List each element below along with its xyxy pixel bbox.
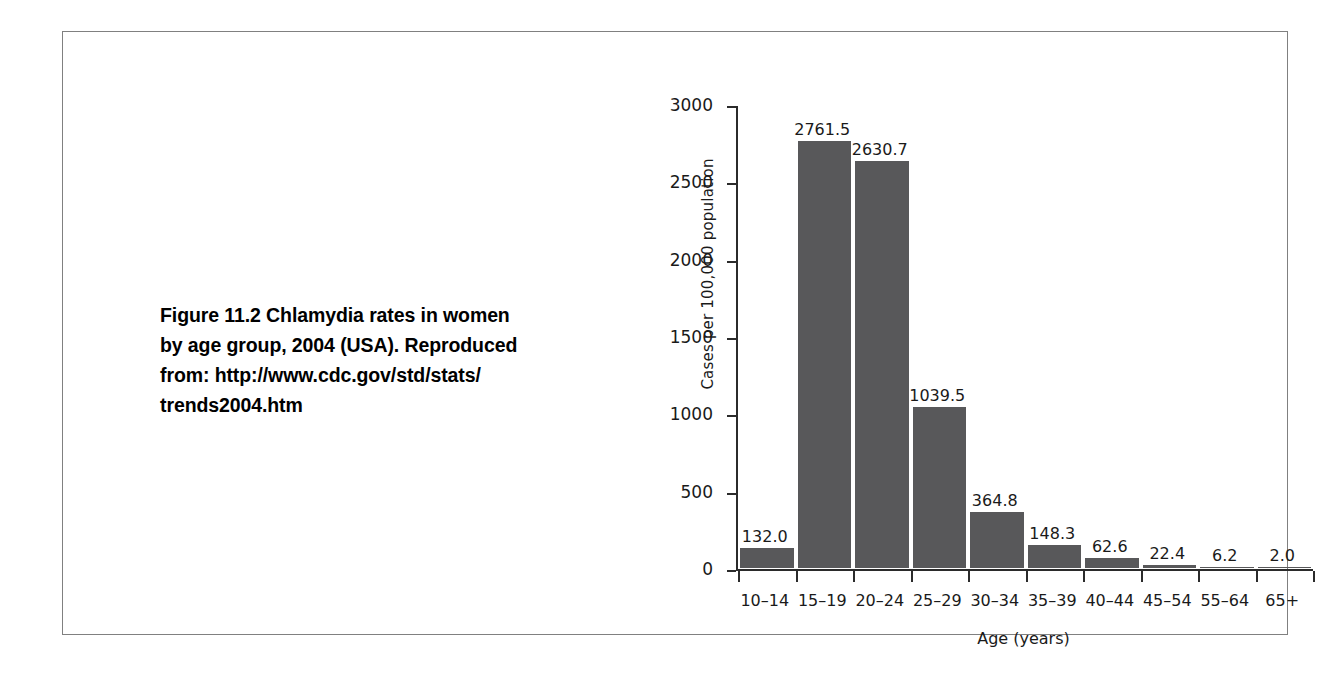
caption-line-3: from: http://www.cdc.gov/std/stats/ [160,360,575,390]
x-axis-tick [1198,571,1200,582]
x-axis-tick [1256,571,1258,582]
y-axis-tick: 3000 [727,106,736,108]
x-axis-tick [1083,571,1085,582]
y-axis-tick: 0 [727,570,736,572]
y-axis-tick-label: 0 [702,559,713,579]
x-axis-category-label: 65+ [1248,591,1318,610]
y-axis-tick-label: 2000 [670,250,713,270]
x-axis-tick [738,571,740,582]
caption-line-4: trends2004.htm [160,390,575,420]
bar-value-label: 2.0 [1246,546,1320,565]
x-axis-tick [1026,571,1028,582]
x-axis-tick [796,571,798,582]
bar-value-label: 2761.5 [786,120,860,139]
figure-caption: Figure 11.2 Chlamydia rates in women by … [160,300,575,420]
y-axis-tick-label: 500 [681,482,713,502]
bar[interactable] [913,407,967,568]
figure-frame: Figure 11.2 Chlamydia rates in women by … [62,31,1288,635]
y-axis-tick: 500 [727,493,736,495]
bar-chart: Cases per 100,000 population 05001000150… [638,87,1332,647]
bar[interactable] [855,161,909,568]
y-axis-tick: 2000 [727,261,736,263]
y-axis-tick-label: 1000 [670,404,713,424]
bar-value-label: 132.0 [728,527,802,546]
x-axis-title: Age (years) [736,629,1311,648]
x-axis-tick [968,571,970,582]
bar-value-label: 1039.5 [901,386,975,405]
x-axis-tick [853,571,855,582]
caption-line-2: by age group, 2004 (USA). Reproduced [160,330,575,360]
y-axis-line [736,106,738,571]
x-axis-tick [911,571,913,582]
y-axis-tick-label: 1500 [670,327,713,347]
y-axis-tick: 1500 [727,338,736,340]
bar-value-label: 2630.7 [843,140,917,159]
bar[interactable] [740,548,794,568]
plot-area: 050010001500200025003000 132.02761.52630… [736,106,1311,570]
x-axis-tick [1141,571,1143,582]
y-axis-tick-label: 3000 [670,95,713,115]
bar-value-label: 364.8 [958,491,1032,510]
y-axis-tick: 1000 [727,415,736,417]
x-axis-tick [1313,571,1315,582]
y-axis-tick-label: 2500 [670,172,713,192]
bar[interactable] [1200,567,1254,569]
bar[interactable] [1258,567,1312,569]
caption-line-1: Figure 11.2 Chlamydia rates in women [160,300,575,330]
bar[interactable] [798,141,852,568]
x-axis-line [736,569,1313,571]
bar[interactable] [1143,565,1197,568]
y-axis-tick: 2500 [727,183,736,185]
